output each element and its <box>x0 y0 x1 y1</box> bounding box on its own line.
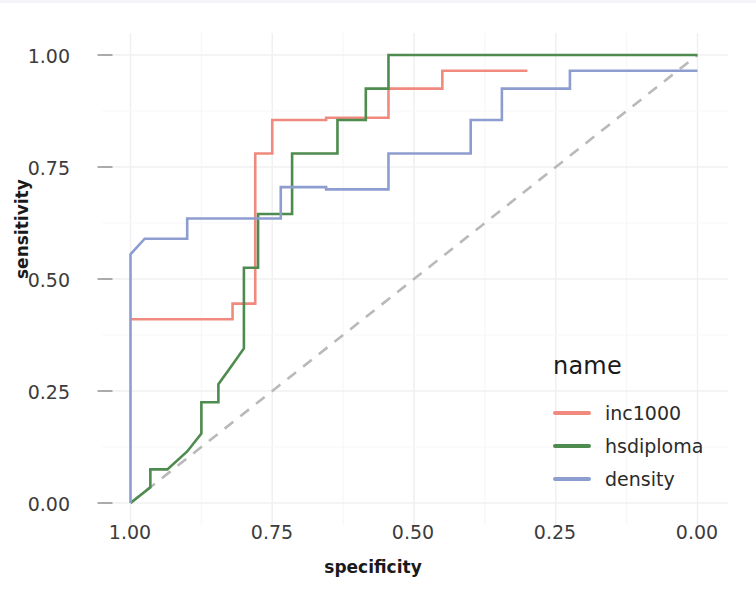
legend-swatch-inc1000 <box>553 411 591 415</box>
x-tick-1.00: 1.00 <box>90 521 170 543</box>
legend-item-density[interactable]: density <box>553 462 743 495</box>
legend-item-hsdiploma[interactable]: hsdiploma <box>553 429 743 462</box>
legend-label-density: density <box>605 468 675 490</box>
y-tick-0.00: 0.00 <box>0 493 70 515</box>
legend-item-inc1000[interactable]: inc1000 <box>553 396 743 429</box>
y-tick-1.00: 1.00 <box>0 45 70 67</box>
y-axis-title: sensitivity <box>12 179 32 279</box>
x-tick-0.50: 0.50 <box>373 521 453 543</box>
legend-swatch-density <box>553 477 591 481</box>
roc-chart: 1.00 0.75 0.50 0.25 0.00 1.00 0.75 0.50 … <box>0 0 756 613</box>
x-tick-0.75: 0.75 <box>232 521 312 543</box>
x-tick-0.25: 0.25 <box>515 521 595 543</box>
legend-swatch-hsdiploma <box>553 444 591 448</box>
x-tick-0.00: 0.00 <box>657 521 737 543</box>
x-axis-title: specificity <box>324 557 421 577</box>
legend-label-inc1000: inc1000 <box>605 402 681 424</box>
series-line-inc1000 <box>131 71 528 320</box>
y-tick-0.25: 0.25 <box>0 381 70 403</box>
y-tick-0.75: 0.75 <box>0 157 70 179</box>
legend-label-hsdiploma: hsdiploma <box>605 435 703 457</box>
y-tick-0.50: 0.50 <box>0 269 70 291</box>
legend-title: name <box>553 352 743 380</box>
legend: name inc1000 hsdiploma density <box>553 352 743 495</box>
